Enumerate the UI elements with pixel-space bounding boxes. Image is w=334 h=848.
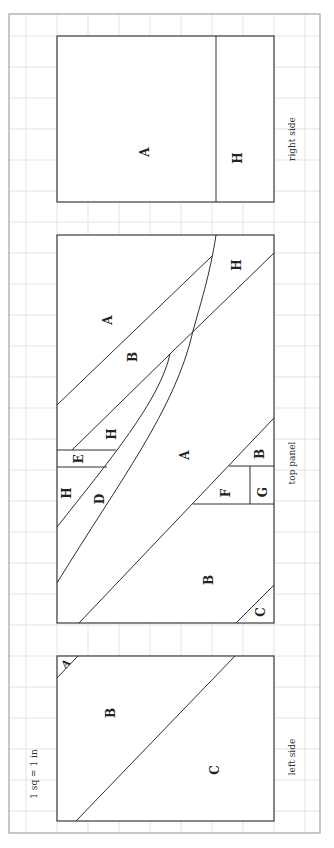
panel-caption: top panel <box>287 441 297 484</box>
piece-label: B <box>202 575 216 585</box>
piece-label: E <box>72 454 86 463</box>
panel-caption: right side <box>287 117 297 161</box>
piece-label: F <box>219 488 233 497</box>
piece-label: H <box>231 152 245 163</box>
pattern-diagram: A H right side A B H H E H D A B <box>0 0 334 848</box>
panel-caption: left side <box>287 739 297 776</box>
piece-label: C <box>254 607 268 617</box>
panel-left-side: A B C left side <box>57 656 297 821</box>
panel-top: A B H H E H D A B F G B C top panel <box>57 235 297 623</box>
piece-label: C <box>208 765 222 775</box>
piece-label: B <box>253 449 267 459</box>
piece-label: D <box>93 494 107 504</box>
piece-label: A <box>101 315 115 326</box>
piece-label: H <box>105 428 119 439</box>
top-panel-outline <box>57 235 274 623</box>
panel-right-side: A H right side <box>57 36 297 202</box>
piece-label: H <box>60 487 74 498</box>
piece-label: B <box>104 708 118 718</box>
scale-note: 1 sq = 1 in <box>29 749 39 799</box>
piece-label: A <box>138 147 152 158</box>
left-side-outline <box>57 656 274 821</box>
right-side-outline <box>57 36 274 202</box>
piece-label: G <box>256 487 270 497</box>
piece-label: B <box>126 352 140 362</box>
piece-label: A <box>178 450 192 461</box>
piece-label: H <box>230 259 244 270</box>
